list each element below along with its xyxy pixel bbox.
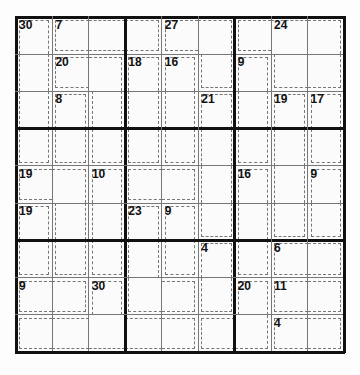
cage-outline [128, 278, 161, 312]
sudoku-cell[interactable] [125, 129, 161, 166]
cage-sum-label: 9 [311, 168, 318, 181]
cage-outline [311, 129, 341, 163]
sudoku-cell[interactable] [271, 129, 307, 166]
sudoku-cell[interactable] [52, 278, 88, 315]
sudoku-cell[interactable] [162, 129, 198, 166]
cell-grid-line [15, 165, 345, 166]
sudoku-cell[interactable] [198, 166, 234, 203]
cage-outline [238, 91, 268, 128]
cage-outline [19, 318, 52, 349]
cage-outline [89, 57, 122, 91]
cage-outline [274, 54, 307, 88]
sudoku-cell[interactable] [52, 129, 88, 166]
sudoku-cell[interactable] [89, 203, 125, 240]
sudoku-cell[interactable] [89, 315, 125, 352]
sudoku-cell[interactable] [235, 240, 271, 277]
cage-sum-label: 20 [238, 280, 251, 293]
cage-outline [238, 203, 268, 240]
sudoku-cell[interactable] [308, 315, 344, 352]
sudoku-cell[interactable] [198, 129, 234, 166]
sudoku-cell[interactable] [235, 129, 271, 166]
sudoku-cell[interactable] [125, 91, 161, 128]
cage-sum-label: 4 [274, 317, 281, 330]
sudoku-cell[interactable] [308, 54, 344, 91]
cage-outline [308, 318, 341, 349]
cage-outline [198, 20, 231, 54]
sudoku-cell[interactable] [125, 17, 161, 54]
cage-outline [162, 318, 195, 349]
cage-outline [19, 129, 49, 163]
box-border-line [124, 16, 127, 353]
cage-sum-label: 9 [165, 205, 172, 218]
sudoku-cell[interactable] [52, 240, 88, 277]
cell-grid-line [161, 16, 162, 353]
sudoku-cell[interactable] [89, 129, 125, 166]
cage-sum-label: 27 [165, 19, 178, 32]
sudoku-cell[interactable] [198, 203, 234, 240]
box-border-line [233, 16, 236, 353]
cell-grid-line [307, 16, 308, 353]
cage-outline [165, 91, 195, 128]
sudoku-cell[interactable] [308, 240, 344, 277]
cage-outline [238, 240, 268, 274]
box-border-line [343, 16, 346, 353]
sudoku-cell[interactable] [125, 315, 161, 352]
sudoku-cell[interactable] [89, 91, 125, 128]
sudoku-cell[interactable] [16, 129, 52, 166]
sudoku-cell[interactable] [89, 17, 125, 54]
sudoku-cell[interactable] [235, 91, 271, 128]
sudoku-cell[interactable] [162, 91, 198, 128]
cage-sum-label: 19 [19, 168, 32, 181]
cage-outline [162, 169, 195, 200]
sudoku-cell[interactable] [162, 240, 198, 277]
cage-outline [55, 129, 85, 163]
cell-grid-line [52, 16, 53, 353]
sudoku-cell[interactable] [235, 17, 271, 54]
sudoku-cell[interactable] [198, 17, 234, 54]
cage-outline [308, 20, 341, 54]
cage-outline [55, 240, 85, 274]
cage-sum-label: 9 [19, 280, 26, 293]
sudoku-cell[interactable] [52, 203, 88, 240]
sudoku-cell[interactable] [125, 166, 161, 203]
sudoku-cell[interactable] [308, 17, 344, 54]
cage-sum-label: 16 [238, 168, 251, 181]
cage-outline [311, 203, 341, 237]
sudoku-cell[interactable] [16, 315, 52, 352]
sudoku-cell[interactable] [162, 278, 198, 315]
sudoku-cell[interactable] [308, 278, 344, 315]
cage-sum-label: 30 [92, 280, 105, 293]
sudoku-cell[interactable] [16, 240, 52, 277]
cage-outline [201, 278, 231, 312]
sudoku-cell[interactable] [89, 54, 125, 91]
sudoku-cell[interactable] [125, 278, 161, 315]
cage-outline [92, 91, 122, 128]
cage-outline [201, 129, 231, 166]
cage-outline [162, 281, 195, 312]
sudoku-cell[interactable] [89, 240, 125, 277]
sudoku-cell[interactable] [52, 315, 88, 352]
box-border-line [15, 351, 345, 354]
sudoku-cell[interactable] [271, 203, 307, 240]
sudoku-cell[interactable] [125, 240, 161, 277]
sudoku-cell[interactable] [162, 315, 198, 352]
sudoku-cell[interactable] [235, 203, 271, 240]
sudoku-cell[interactable] [308, 129, 344, 166]
cage-outline [308, 281, 341, 312]
sudoku-cell[interactable] [16, 54, 52, 91]
cell-grid-line [15, 203, 345, 204]
sudoku-cell[interactable] [308, 203, 344, 240]
sudoku-cell[interactable] [271, 166, 307, 203]
sudoku-cell[interactable] [52, 166, 88, 203]
sudoku-cell[interactable] [198, 278, 234, 315]
sudoku-cell[interactable] [198, 54, 234, 91]
sudoku-cell[interactable] [16, 91, 52, 128]
cage-outline [55, 203, 85, 240]
cage-outline [165, 240, 195, 274]
cage-outline [52, 318, 88, 349]
sudoku-cell[interactable] [198, 315, 234, 352]
cell-grid-line [271, 16, 272, 353]
sudoku-cell[interactable] [235, 315, 271, 352]
sudoku-cell[interactable] [162, 166, 198, 203]
sudoku-cell[interactable] [271, 54, 307, 91]
